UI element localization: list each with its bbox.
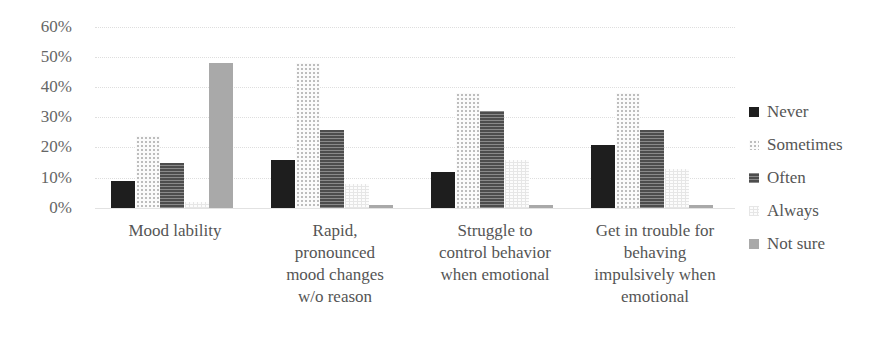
bar-always <box>505 160 529 208</box>
bar-sometimes <box>296 63 320 208</box>
legend-label: Often <box>767 168 806 188</box>
x-axis-line <box>95 208 735 209</box>
y-tick-40: 40% <box>0 78 72 96</box>
bar-never <box>431 172 455 208</box>
bar-sometimes <box>136 136 160 208</box>
bar-sometimes <box>616 93 640 208</box>
legend-swatch-always <box>749 206 759 216</box>
bar-always <box>345 184 369 208</box>
x-label-line: Mood lability <box>95 220 255 242</box>
x-label-line: when emotional <box>415 264 575 286</box>
legend-item-always: Always <box>749 194 843 227</box>
x-label-rapid-mood-changes: Rapid,pronouncedmood changesw/o reason <box>255 220 415 308</box>
x-label-line: Rapid, <box>255 220 415 242</box>
legend-swatch-not-sure <box>749 239 759 249</box>
bar-not-sure <box>209 63 233 208</box>
x-label-line: control behavior <box>415 242 575 264</box>
legend-swatch-sometimes <box>749 140 759 150</box>
legend-item-sometimes: Sometimes <box>749 129 843 162</box>
x-label-mood-lability: Mood lability <box>95 220 255 242</box>
y-tick-50: 50% <box>0 48 72 66</box>
bar-always <box>665 169 689 208</box>
legend-item-often: Often <box>749 162 843 195</box>
legend-item-not-sure: Not sure <box>749 227 843 260</box>
bar-not-sure <box>689 205 713 208</box>
x-label-line: Struggle to <box>415 220 575 242</box>
gridline <box>95 87 735 88</box>
x-label-line: emotional <box>575 286 735 308</box>
x-label-line: impulsively when <box>575 264 735 286</box>
legend-label: Never <box>767 102 809 122</box>
legend-label: Sometimes <box>767 135 843 155</box>
x-label-line: w/o reason <box>255 286 415 308</box>
bar-sometimes <box>456 93 480 208</box>
legend-item-never: Never <box>749 96 843 129</box>
legend-swatch-never <box>749 107 759 117</box>
y-tick-10: 10% <box>0 169 72 187</box>
legend-label: Not sure <box>767 234 825 254</box>
legend-label: Always <box>767 201 819 221</box>
bar-often <box>160 163 184 208</box>
legend: Never Sometimes Often Always Not sure <box>749 96 843 260</box>
y-tick-0: 0% <box>0 199 72 217</box>
x-label-line: behaving <box>575 242 735 264</box>
x-label-struggle-control: Struggle tocontrol behaviorwhen emotiona… <box>415 220 575 286</box>
x-label-line: pronounced <box>255 242 415 264</box>
bar-often <box>640 130 664 208</box>
bar-always <box>185 202 209 208</box>
legend-swatch-often <box>749 173 759 183</box>
x-label-line: mood changes <box>255 264 415 286</box>
gridline <box>95 57 735 58</box>
x-label-get-in-trouble: Get in trouble forbehavingimpulsively wh… <box>575 220 735 308</box>
bar-never <box>271 160 295 208</box>
bar-never <box>591 145 615 208</box>
y-tick-30: 30% <box>0 108 72 126</box>
gridline <box>95 27 735 28</box>
y-tick-60: 60% <box>0 18 72 36</box>
bar-not-sure <box>529 205 553 208</box>
bar-never <box>111 181 135 208</box>
bar-not-sure <box>369 205 393 208</box>
x-label-line: Get in trouble for <box>575 220 735 242</box>
y-tick-20: 20% <box>0 138 72 156</box>
bar-often <box>320 130 344 208</box>
bar-often <box>480 111 504 208</box>
